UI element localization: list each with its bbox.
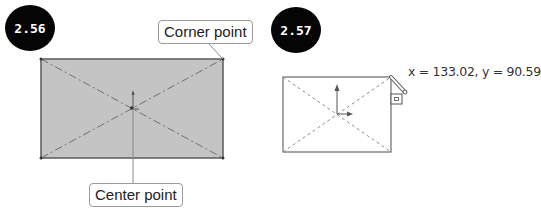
corner-leader-line [207,42,223,59]
figure-2-56-rectangle [40,42,225,183]
center-point-callout: Center point [89,183,183,207]
corner-point-callout: Corner point [158,20,253,44]
figure-number-badge-2-56: 2.56 [5,5,55,51]
pencil-cursor-icon [391,77,407,94]
figure-number-badge-2-57: 2.57 [271,7,321,53]
cursor-coordinates-label: x = 133.02, y = 90.59 [408,64,541,79]
rectangle-tool-icon [391,94,402,104]
figure-2-57-rectangle [283,77,407,152]
